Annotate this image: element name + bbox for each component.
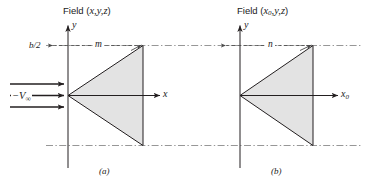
- panel-b-y-axis-label: y: [244, 20, 248, 30]
- panel-b-dimension-label: n: [266, 40, 275, 50]
- field-diagram-svg: [0, 0, 371, 193]
- panel-a-y-axis-label: y: [72, 20, 76, 30]
- figure-root: Field (x,y,z) Field (x0,y,z) y x y x0 b/…: [0, 0, 371, 193]
- panel-b: [226, 26, 338, 169]
- panel-b-caption: (b): [271, 167, 282, 176]
- panel-a-caption: (a): [99, 167, 110, 176]
- panel-a-half-span-label: b/2: [29, 41, 41, 50]
- panel-a-x-axis-label: x: [163, 89, 167, 99]
- panel-b-x-axis-label: x0: [341, 89, 349, 101]
- panel-a-title: Field (x,y,z): [63, 6, 111, 17]
- panel-b-title: Field (x0,y,z): [237, 6, 288, 17]
- panel-a-dimension-label: m: [93, 40, 104, 50]
- freestream-velocity-label: −V∞: [11, 91, 32, 103]
